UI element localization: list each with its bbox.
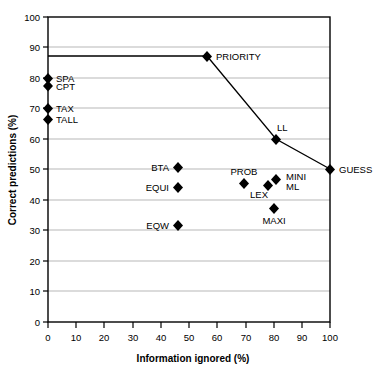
y-axis-title: Correct predictions (%) <box>7 115 18 226</box>
marker-tall <box>43 114 53 125</box>
gridlines <box>48 47 330 291</box>
label-eqw: EQW <box>146 220 169 231</box>
marker-eqw <box>173 220 183 231</box>
marker-tax <box>43 103 53 114</box>
xtick-label-40: 40 <box>156 332 167 343</box>
xtick-label-50: 50 <box>184 332 195 343</box>
plot-frame <box>48 17 330 322</box>
marker-mini-ml <box>271 174 281 185</box>
label-tall: TALL <box>56 114 78 125</box>
marker-cpt <box>43 81 53 92</box>
label-ml: ML <box>286 181 299 192</box>
y-axis-ticks <box>43 17 48 322</box>
label-ll: LL <box>277 122 288 133</box>
ytick-label-30: 30 <box>29 225 40 236</box>
ytick-label-90: 90 <box>29 42 40 53</box>
x-tick-labels: 0 10 20 30 40 50 60 70 80 90 100 <box>45 332 338 343</box>
marker-equi <box>173 182 183 193</box>
label-lex: LEX <box>250 189 269 200</box>
plot-area: 100 90 80 70 60 50 40 30 20 10 0 <box>0 0 382 392</box>
marker-bta <box>173 162 183 173</box>
y-tick-labels: 100 90 80 70 60 50 40 30 20 10 0 <box>24 12 40 328</box>
marker-maxi <box>269 203 279 214</box>
label-prob: PROB <box>231 166 258 177</box>
xtick-label-0: 0 <box>45 332 50 343</box>
label-maxi: MAXI <box>262 215 285 226</box>
label-guess: GUESS <box>339 164 372 175</box>
scatter-chart: 100 90 80 70 60 50 40 30 20 10 0 <box>0 0 382 392</box>
ytick-label-20: 20 <box>29 256 40 267</box>
marker-guess <box>325 164 335 175</box>
ytick-label-10: 10 <box>29 286 40 297</box>
label-priority: PRIORITY <box>216 51 262 62</box>
ytick-label-80: 80 <box>29 73 40 84</box>
frontier-line <box>48 56 330 169</box>
ytick-label-70: 70 <box>29 103 40 114</box>
ytick-label-100: 100 <box>24 12 40 23</box>
xtick-label-80: 80 <box>269 332 280 343</box>
xtick-label-30: 30 <box>128 332 139 343</box>
xtick-label-60: 60 <box>212 332 223 343</box>
xtick-label-70: 70 <box>241 332 252 343</box>
ytick-label-60: 60 <box>29 134 40 145</box>
x-axis-ticks <box>48 322 330 328</box>
ytick-label-50: 50 <box>29 164 40 175</box>
label-equi: EQUI <box>146 182 169 193</box>
x-axis-title: Information ignored (%) <box>137 353 250 364</box>
marker-prob <box>239 178 249 189</box>
label-cpt: CPT <box>56 81 75 92</box>
label-bta: BTA <box>151 162 169 173</box>
label-mini: MINI <box>286 171 306 182</box>
xtick-label-20: 20 <box>99 332 110 343</box>
xtick-label-10: 10 <box>71 332 82 343</box>
label-tax: TAX <box>56 103 74 114</box>
ytick-label-40: 40 <box>29 195 40 206</box>
xtick-label-90: 90 <box>297 332 308 343</box>
xtick-label-100: 100 <box>322 332 338 343</box>
ytick-label-0: 0 <box>35 317 40 328</box>
